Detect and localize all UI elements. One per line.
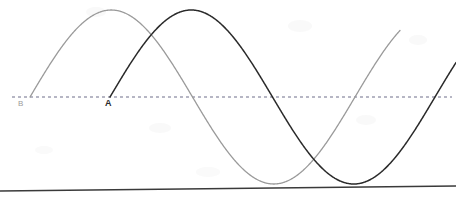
wave-label-a: A: [105, 99, 112, 108]
wave-label-b: B: [18, 100, 23, 108]
wave-interference-figure: B A: [0, 0, 456, 197]
bottom-page-rule: [0, 186, 456, 191]
wave-plot-canvas: [0, 0, 456, 197]
scan-noise-layer: [35, 7, 427, 177]
